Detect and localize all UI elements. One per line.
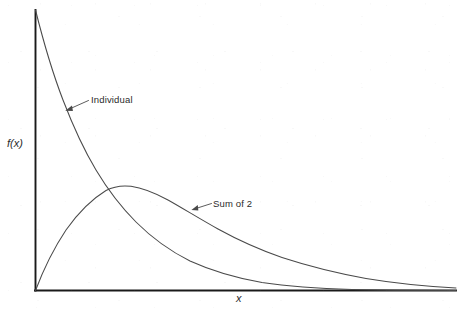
leader-line-individual	[71, 101, 89, 109]
leader-arrowhead-sum-of-2	[191, 205, 198, 210]
x-axis-label: x	[236, 293, 242, 304]
figure-canvas: f(x) x Individual Sum of 2	[0, 0, 460, 315]
density-plot	[0, 0, 460, 315]
leader-line-sum-of-2	[197, 204, 212, 209]
curve-individual	[36, 10, 457, 291]
annotation-sum-of-2-label: Sum of 2	[213, 199, 252, 209]
y-axis-label: f(x)	[7, 138, 23, 149]
annotation-individual-label: Individual	[91, 95, 133, 105]
